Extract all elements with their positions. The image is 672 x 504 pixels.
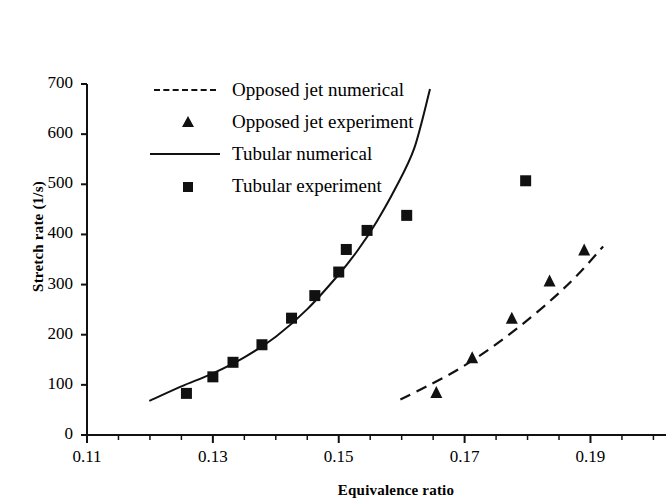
series-markers-opposed-jet-experiment <box>430 243 590 397</box>
dashed-line-key-icon <box>150 75 228 105</box>
y-axis-tick-label: 500 <box>17 173 73 193</box>
x-axis-tick-label: 0.11 <box>52 447 122 467</box>
x-axis-tick-label: 0.13 <box>178 447 248 467</box>
triangle-marker-key-icon <box>150 107 228 137</box>
legend-label: Opposed jet experiment <box>228 111 414 133</box>
solid-line-key-icon <box>150 139 228 169</box>
x-axis-title: Equivalence ratio <box>186 482 606 499</box>
x-axis-tick-label: 0.15 <box>304 447 374 467</box>
legend-item-tubular-numerical: Tubular numerical <box>150 138 414 170</box>
y-axis-tick-label: 100 <box>17 374 73 394</box>
y-axis-tick-label: 0 <box>17 424 73 444</box>
legend-item-opposed-jet-experiment: Opposed jet experiment <box>150 106 414 138</box>
y-axis-tick-label: 400 <box>17 223 73 243</box>
series-line-opposed-jet-numerical <box>400 247 603 400</box>
legend-item-tubular-experiment: Tubular experiment <box>150 170 414 202</box>
y-axis-tick-label: 300 <box>17 274 73 294</box>
legend-item-opposed-jet-numerical: Opposed jet numerical <box>150 74 414 106</box>
chart-legend: Opposed jet numerical Opposed jet experi… <box>150 74 414 202</box>
series-markers-tubular-experiment <box>181 175 531 399</box>
x-axis-major-ticks <box>87 435 590 443</box>
y-axis-tick-label: 200 <box>17 324 73 344</box>
legend-label: Opposed jet numerical <box>228 79 404 101</box>
y-axis-tick-label: 700 <box>17 73 73 93</box>
legend-label: Tubular numerical <box>228 143 372 165</box>
legend-label: Tubular experiment <box>228 175 382 197</box>
x-axis-tick-label: 0.19 <box>555 447 625 467</box>
square-marker-key-icon <box>150 171 228 201</box>
x-axis-tick-label: 0.17 <box>430 447 500 467</box>
chart-figure: Stretch rate (1/s) Equivalence ratio 010… <box>0 0 672 504</box>
y-axis-tick-label: 600 <box>17 123 73 143</box>
